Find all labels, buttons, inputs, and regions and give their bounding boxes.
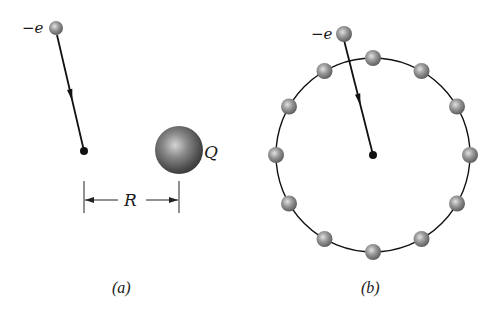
dimension-arrowhead-icon: [169, 197, 178, 203]
electron-sphere: [336, 26, 352, 42]
ring-charge-sphere: [317, 63, 333, 79]
ring-charge-sphere: [449, 196, 465, 212]
distance-label: R: [123, 190, 137, 210]
ring-charge-sphere: [317, 231, 333, 247]
trajectory-arrowhead-icon: [355, 93, 361, 105]
electron-sphere: [49, 21, 63, 35]
panel-b: −e (b): [268, 25, 478, 297]
ring-charge-sphere: [365, 244, 381, 260]
ring-charge-sphere: [281, 99, 297, 115]
ring-charge-sphere: [268, 147, 284, 163]
dimension-arrowhead-icon: [85, 197, 94, 203]
panel-a-caption: (a): [112, 279, 131, 297]
ring-charge-sphere: [449, 99, 465, 115]
electron-label: −e: [22, 19, 44, 37]
point-charge-sphere: [155, 126, 203, 174]
ring-charge-sphere: [414, 231, 430, 247]
electron-label: −e: [311, 25, 333, 43]
ring-charge-sphere: [365, 50, 381, 66]
ring-charge-sphere: [281, 196, 297, 212]
panel-a: −e Q R (a): [22, 19, 218, 297]
endpoint-dot: [80, 147, 88, 155]
ring-charge-sphere: [462, 147, 478, 163]
panel-b-caption: (b): [361, 279, 380, 297]
center-dot: [369, 151, 377, 159]
charge-label: Q: [204, 142, 218, 162]
trajectory-arrowhead-icon: [67, 89, 72, 101]
ring-charge-sphere: [414, 63, 430, 79]
ring-charge-diagram: −e Q R (a) −e (b): [0, 0, 502, 313]
